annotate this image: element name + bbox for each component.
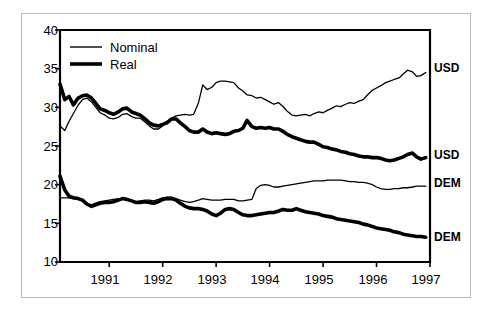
y-tick-label-25: 25 <box>24 140 58 153</box>
series-end-label-usd-nominal: USD <box>434 62 459 74</box>
x-tick-label-1994: 1994 <box>243 273 287 286</box>
x-tick-label-1995: 1995 <box>297 273 341 286</box>
y-tick-label-15: 15 <box>24 217 58 230</box>
series-line-dem_real <box>60 176 426 237</box>
chart-figure: 40 35 30 25 20 15 10 1991 1992 1993 1994… <box>0 0 492 311</box>
x-tick-label-1996: 1996 <box>351 273 395 286</box>
legend-label-nominal: Nominal <box>110 41 158 54</box>
x-tick-label-1992: 1992 <box>136 273 180 286</box>
line-chart-plot <box>0 0 492 311</box>
legend-swatches <box>70 47 102 64</box>
y-tick-label-40: 40 <box>24 24 58 37</box>
y-tick-label-35: 35 <box>24 62 58 75</box>
x-tick-label-1991: 1991 <box>83 273 127 286</box>
y-tick-label-20: 20 <box>24 178 58 191</box>
series-line-usd_nominal <box>60 70 426 130</box>
series-end-label-dem-real: DEM <box>434 231 461 243</box>
series-end-label-dem-nominal: DEM <box>434 177 461 189</box>
series-line-usd_real <box>60 84 426 161</box>
x-tick-label-1997: 1997 <box>404 273 448 286</box>
x-tick-label-1993: 1993 <box>190 273 234 286</box>
y-tick-label-10: 10 <box>24 255 58 268</box>
y-tick-label-30: 30 <box>24 101 58 114</box>
legend-label-real: Real <box>110 58 137 71</box>
data-series-layer <box>60 70 426 237</box>
series-end-label-usd-real: USD <box>434 149 459 161</box>
